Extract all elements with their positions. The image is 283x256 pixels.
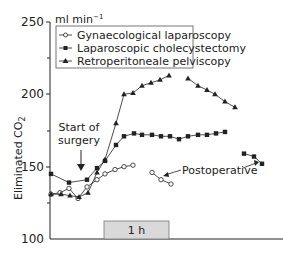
legend-item-gynaecological: Gynaecological laparoscopy (59, 29, 231, 42)
filled-square-marker-icon (85, 177, 89, 181)
filled-square-marker-icon (242, 151, 246, 155)
series-line (51, 165, 133, 198)
filled-square-marker-icon (260, 162, 264, 166)
filled-triangle-marker-icon (166, 73, 172, 78)
arrow-down-icon (77, 164, 85, 171)
svg-text:1 h: 1 h (128, 224, 145, 237)
unit-label: ml min−1 (55, 13, 103, 26)
open-circle-marker-icon (122, 164, 126, 168)
chart: 250 200 150 100 ml min−1 Eliminated CO2 … (0, 0, 283, 256)
open-circle-marker-icon (159, 177, 163, 181)
filled-square-marker-icon (122, 134, 126, 138)
open-circle-marker-icon (131, 163, 135, 167)
legend: Gynaecological laparoscopy Laparoscopic … (56, 26, 246, 68)
filled-triangle-marker-icon (185, 75, 191, 80)
filled-square-marker-icon (49, 172, 53, 176)
postoperative-annotation: Postoperative (163, 160, 259, 177)
y-axis-title: Eliminated CO2 (12, 116, 27, 200)
filled-square-marker-icon (205, 133, 209, 137)
svg-text:Postoperative: Postoperative (182, 164, 258, 177)
filled-triangle-marker-icon (130, 90, 136, 95)
y-axis (46, 22, 50, 239)
open-circle-marker-icon (113, 167, 117, 171)
start-of-surgery-annotation: Start of surgery (58, 121, 101, 171)
filled-triangle-marker-icon (222, 99, 228, 104)
open-circle-marker-icon (103, 172, 107, 176)
filled-triangle-marker-icon (212, 91, 218, 96)
svg-text:Laparoscopic cholecystectomy: Laparoscopic cholecystectomy (77, 42, 246, 55)
svg-text:surgery: surgery (58, 134, 100, 147)
filled-square-marker-icon (67, 180, 71, 184)
filled-square-marker-icon (177, 137, 181, 141)
filled-square-marker-icon (140, 133, 144, 137)
arrow-left-icon (163, 172, 169, 177)
open-circle-marker-icon (64, 33, 68, 37)
filled-square-marker-icon (196, 133, 200, 137)
open-circle-marker-icon (85, 185, 89, 189)
filled-square-marker-icon (252, 154, 256, 158)
time-scale-bar: 1 h (104, 221, 169, 239)
filled-square-marker-icon (132, 131, 136, 135)
open-circle-marker-icon (67, 186, 71, 190)
filled-triangle-marker-icon (113, 120, 119, 125)
y-tick-250: 250 (21, 15, 44, 29)
filled-square-marker-icon (150, 133, 154, 137)
filled-triangle-marker-icon (195, 83, 201, 88)
open-circle-marker-icon (150, 170, 154, 174)
filled-square-marker-icon (214, 131, 218, 135)
filled-square-marker-icon (168, 134, 172, 138)
open-circle-marker-icon (95, 177, 99, 181)
y-tick-100: 100 (21, 232, 44, 246)
svg-text:Gynaecological laparoscopy: Gynaecological laparoscopy (77, 29, 231, 42)
filled-square-marker-icon (64, 46, 68, 50)
filled-square-marker-icon (159, 134, 163, 138)
svg-text:Retroperitoneale pelviscopy: Retroperitoneale pelviscopy (77, 55, 231, 68)
filled-triangle-marker-icon (232, 104, 238, 109)
y-tick-200: 200 (21, 87, 44, 101)
filled-square-marker-icon (114, 143, 118, 147)
svg-text:Start of: Start of (59, 121, 101, 134)
open-circle-marker-icon (169, 182, 173, 186)
legend-item-cholecystectomy: Laparoscopic cholecystectomy (59, 42, 246, 55)
filled-square-marker-icon (186, 134, 190, 138)
series-line (188, 78, 235, 107)
filled-triangle-marker-icon (85, 190, 91, 195)
legend-item-pelviscopy: Retroperitoneale pelviscopy (59, 55, 231, 68)
filled-square-marker-icon (223, 130, 227, 134)
